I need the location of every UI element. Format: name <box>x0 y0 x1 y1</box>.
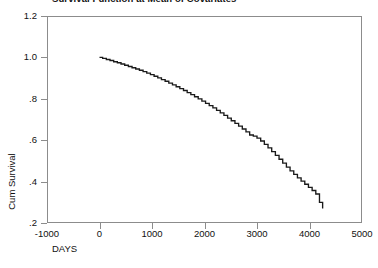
y-tick-1.0 <box>41 57 47 58</box>
x-tick-label-0: 0 <box>97 229 102 239</box>
y-tick-1.2 <box>41 16 47 17</box>
x-tick-label-3000: 3000 <box>246 229 267 239</box>
y-tick-.6 <box>41 140 47 141</box>
y-tick-label-1.2: 1.2 <box>4 11 37 21</box>
y-tick-.8 <box>41 99 47 100</box>
x-tick-label-2000: 2000 <box>194 229 215 239</box>
y-axis-title: Cum Survival <box>6 142 17 222</box>
x-tick-label-4000: 4000 <box>299 229 320 239</box>
survival-curve-line <box>100 57 323 208</box>
x-tick-label-1000: 1000 <box>141 229 162 239</box>
y-tick-label-1.0: 1.0 <box>4 52 37 62</box>
survival-curve-svg <box>47 16 362 223</box>
x-tick-label--1000: -1000 <box>35 229 59 239</box>
x-axis-title: DAYS <box>52 243 77 254</box>
x-tick-label-5000: 5000 <box>351 229 372 239</box>
y-tick-.2 <box>41 223 47 224</box>
y-tick-label-.8: .8 <box>4 94 37 104</box>
y-tick-.4 <box>41 182 47 183</box>
survival-plot-figure: Survival Function at Mean of Covariates … <box>0 0 378 268</box>
chart-title: Survival Function at Mean of Covariates <box>52 0 236 4</box>
